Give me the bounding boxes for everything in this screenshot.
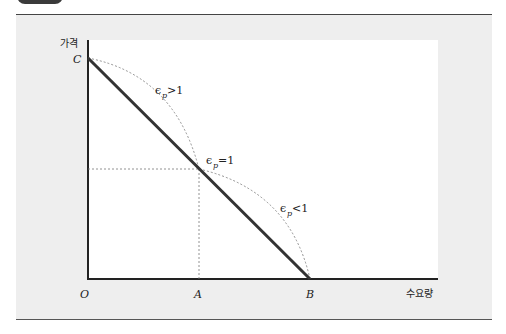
elasticity-diagram: 가격 C O A B 수요량 ϵ p >1 ϵ p =1 ϵ p <1 bbox=[0, 0, 506, 334]
epsilon-symbol: ϵ bbox=[280, 202, 286, 215]
x-axis-label: 수요량 bbox=[406, 288, 433, 299]
origin-label: O bbox=[80, 288, 89, 301]
relation-text: >1 bbox=[167, 84, 183, 97]
point-b-label: B bbox=[305, 288, 314, 301]
point-c-label: C bbox=[73, 53, 82, 66]
point-a-label: A bbox=[193, 288, 202, 301]
plot-area bbox=[88, 40, 438, 279]
relation-text: =1 bbox=[218, 154, 234, 167]
epsilon-symbol: ϵ bbox=[155, 84, 161, 97]
epsilon-symbol: ϵ bbox=[206, 154, 212, 167]
y-axis-label: 가격 bbox=[60, 37, 78, 49]
relation-text: <1 bbox=[292, 202, 308, 215]
